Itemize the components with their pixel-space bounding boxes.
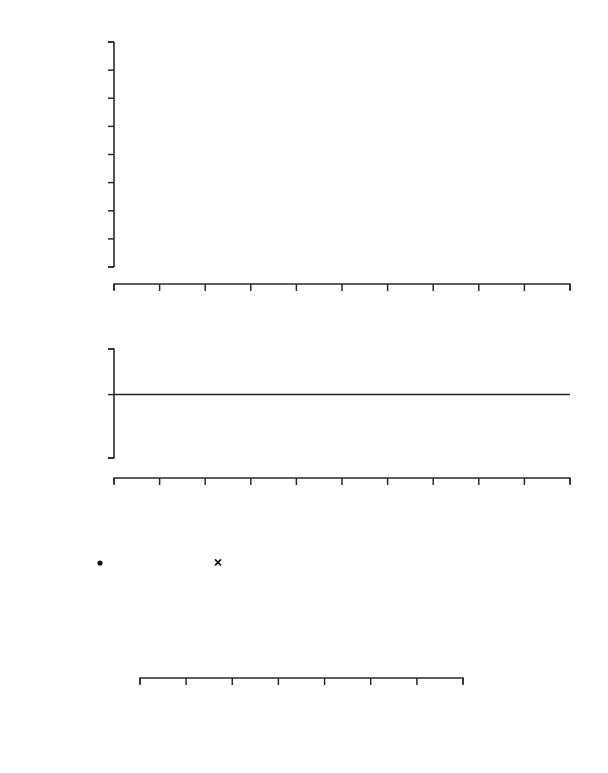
figure-container [0,0,608,773]
legend-dot-icon [97,560,102,565]
boxplot-panel [0,0,463,685]
residual-y-axis [108,349,114,458]
statistics-figure [0,0,608,773]
scatter-x-ticks [114,284,570,291]
boxplot-x-ticks [140,678,463,685]
scatter-plot-panel [108,42,570,291]
boxplot-x-axis [140,678,463,684]
residual-x-ticks [114,478,570,485]
legend-x-icon [216,560,221,565]
legend [97,560,220,566]
residual-plot-panel [108,349,570,485]
scatter-y-ticks [108,42,114,267]
residual-y-ticks [108,349,114,458]
